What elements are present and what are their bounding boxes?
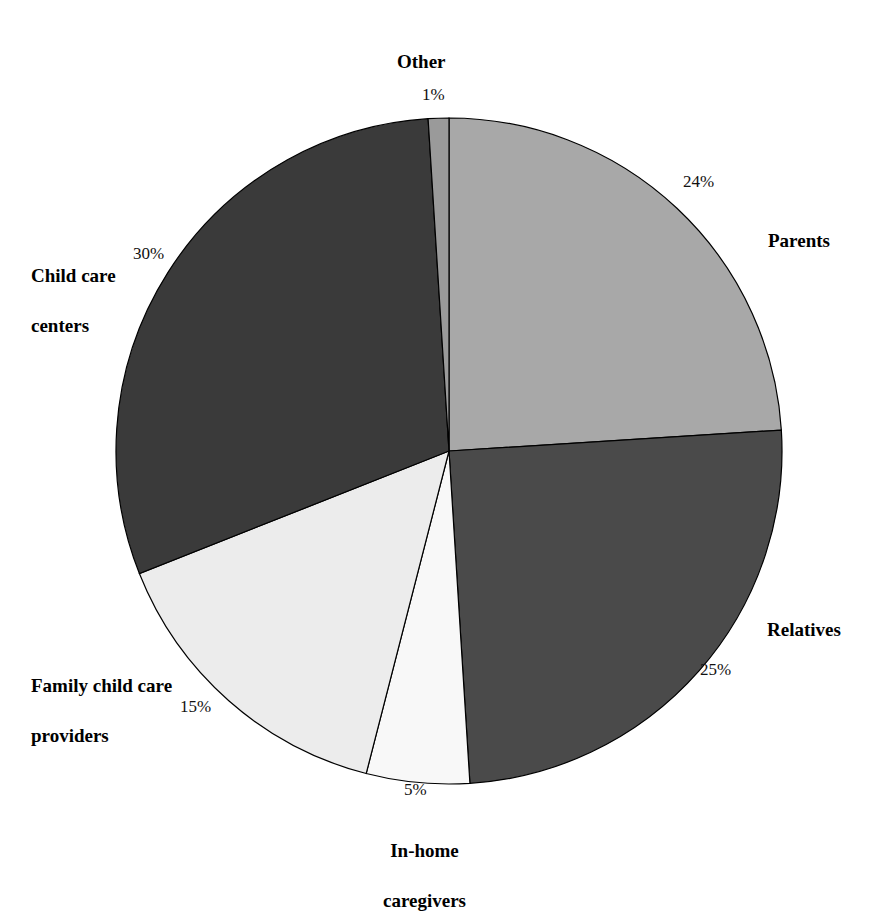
slice-label-family-child-care-providers-line1: Family child care: [31, 673, 172, 698]
slice-label-child-care-centers-line1: Child care: [31, 263, 116, 288]
pie-slice-relatives: [449, 430, 782, 783]
slice-value-in-home-caregivers: 5%: [404, 780, 427, 800]
slice-value-other: 1%: [422, 85, 445, 105]
slice-label-family-child-care-providers-line2: providers: [31, 723, 172, 748]
slice-label-parents-text: Parents: [768, 230, 830, 251]
slice-label-other: Other: [397, 24, 446, 74]
slice-label-in-home-caregivers-line1: In-home: [383, 838, 466, 863]
slice-label-child-care-centers: Child care centers: [31, 238, 116, 363]
slice-label-relatives-text: Relatives: [767, 619, 841, 640]
slice-value-parents: 24%: [683, 172, 714, 192]
slice-label-parents: Parents: [768, 203, 830, 253]
slice-value-family-child-care-providers: 15%: [180, 697, 211, 717]
slice-label-relatives: Relatives: [767, 592, 841, 642]
slice-label-family-child-care-providers: Family child care providers: [31, 648, 172, 773]
slice-value-relatives: 25%: [700, 660, 731, 680]
slice-label-other-text: Other: [397, 51, 446, 72]
slice-value-child-care-centers: 30%: [133, 244, 164, 264]
pie-slice-group: [116, 118, 782, 784]
slice-label-in-home-caregivers: In-home caregivers: [383, 813, 466, 915]
slice-label-in-home-caregivers-line2: caregivers: [383, 888, 466, 913]
pie-slice-parents: [449, 118, 781, 451]
slice-label-child-care-centers-line2: centers: [31, 313, 116, 338]
